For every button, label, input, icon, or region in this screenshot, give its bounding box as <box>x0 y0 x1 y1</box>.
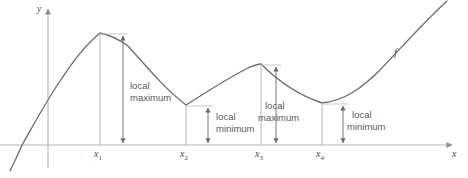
annotation-text-line2-x2: minimum <box>216 123 255 134</box>
annotation-text-line1-x1: local <box>130 80 150 91</box>
curve-label-f: f <box>394 46 399 58</box>
annotation-text-line1-x4: local <box>352 109 372 120</box>
figure-local-extrema: y x f x1 x2 x3 x4 <box>0 0 468 178</box>
annotation-text-line2-x1: maximum <box>130 92 171 103</box>
annotation-local-maximum-x1: local maximum <box>100 34 171 143</box>
annotation-local-maximum-x3: local maximum <box>258 65 299 143</box>
annotation-local-minimum-x2: local minimum <box>186 106 255 143</box>
y-axis-label: y <box>36 3 42 14</box>
tick-label-x1: x1 <box>93 148 102 162</box>
annotation-local-minimum-x4: local minimum <box>322 104 386 143</box>
axes-group: y x <box>0 3 457 168</box>
annotation-text-line1-x3: local <box>265 100 285 111</box>
annotation-text-line1-x2: local <box>216 111 236 122</box>
x-axis-label: x <box>451 148 457 159</box>
annotation-text-line2-x4: minimum <box>347 121 386 132</box>
tick-labels-group: x1 x2 x3 x4 <box>93 148 324 162</box>
tick-label-x2: x2 <box>179 148 188 162</box>
annotation-text-line2-x3: maximum <box>258 112 299 123</box>
tick-label-x3: x3 <box>254 148 263 162</box>
tick-label-x4: x4 <box>315 148 324 162</box>
